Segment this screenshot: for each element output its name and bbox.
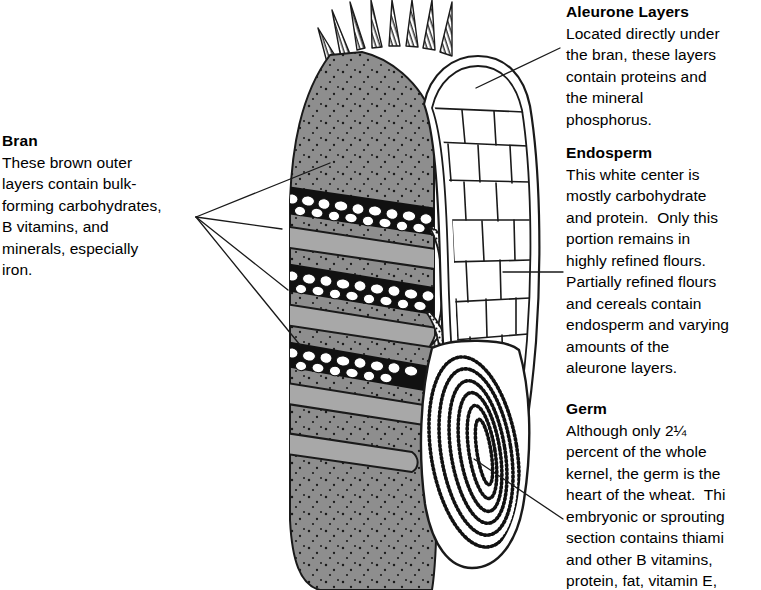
endosperm-heading: Endosperm <box>566 142 761 164</box>
germ-label-block: Germ Although only 2¼ percent of the who… <box>566 398 761 590</box>
aleurone-body: Located directly under the bran, these l… <box>566 23 761 131</box>
germ-body: Although only 2¼ percent of the whole ke… <box>566 420 761 590</box>
aleurone-label-block: Aleurone Layers Located directly under t… <box>566 1 761 130</box>
bran-body: These brown outer layers contain bulk- f… <box>2 152 207 281</box>
wheat-kernel-figure: Bran These brown outer layers contain bu… <box>0 0 761 590</box>
germ-heading: Germ <box>566 398 761 420</box>
endosperm-label-block: Endosperm This white center is mostly ca… <box>566 142 761 379</box>
endosperm-body: This white center is mostly carbohydrate… <box>566 164 761 379</box>
bran-label-block: Bran These brown outer layers contain bu… <box>2 130 207 281</box>
germ-embryo <box>417 341 532 568</box>
bran-heading: Bran <box>2 130 207 152</box>
aleurone-heading: Aleurone Layers <box>566 1 761 23</box>
